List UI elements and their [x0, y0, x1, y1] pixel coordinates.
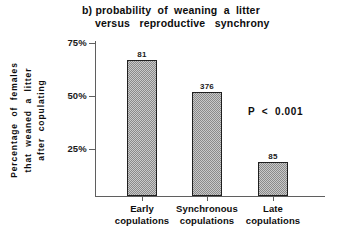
bar-value-late-copulations: 85 [243, 152, 303, 161]
y-tick-label-75: 75% [53, 37, 87, 48]
bar-synchronous-copulations [192, 92, 222, 196]
p-value-annotation: P < 0.001 [248, 106, 303, 117]
y-axis-label: Percentage of females that weaned a litt… [2, 40, 54, 200]
chart-title-line-1: b) probability of weaning a litter [82, 4, 334, 17]
x-category-label-late: Late copulations [230, 203, 316, 227]
chart-title-line-2: versus reproductive synchrony [82, 17, 334, 30]
y-tick-mark-25 [89, 149, 95, 150]
x-category-label-late-line-1: Late [230, 203, 316, 215]
bar-chart: b) probability of weaning a litter versu… [0, 0, 338, 243]
bar-value-early-copulations: 81 [112, 50, 172, 59]
chart-title: b) probability of weaning a litter versu… [82, 4, 334, 30]
y-tick-label-25: 25% [53, 143, 87, 154]
x-tick-mark-late [273, 196, 274, 201]
y-tick-mark-75 [89, 43, 95, 44]
bar-late-copulations [258, 162, 288, 196]
y-tick-mark-50 [89, 96, 95, 97]
y-axis-line [95, 41, 96, 197]
bar-early-copulations [127, 60, 157, 196]
y-axis-label-line-1: Percentage of females [8, 41, 22, 199]
y-tick-label-50: 50% [53, 90, 87, 101]
y-axis-label-line-2: that weaned a litter [21, 41, 35, 199]
x-tick-mark-synchronous [207, 196, 208, 201]
x-category-label-late-line-2: copulations [230, 215, 316, 227]
bar-value-synchronous-copulations: 376 [177, 82, 237, 91]
x-tick-mark-early [142, 196, 143, 201]
y-axis-label-line-3: after copulating [35, 41, 49, 199]
